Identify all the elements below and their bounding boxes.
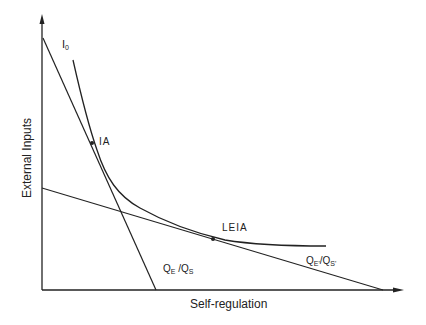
steep-q2: Q bbox=[181, 263, 189, 274]
isoquant-label: I0 bbox=[62, 38, 69, 51]
point-ia-marker bbox=[90, 141, 94, 145]
point-leia-marker bbox=[211, 237, 215, 241]
shallow-q1: Q bbox=[306, 255, 314, 266]
x-axis-arrow-icon bbox=[393, 288, 404, 293]
y-axis-label: External Inputs bbox=[20, 118, 34, 198]
steep-q2-sub: S bbox=[189, 268, 194, 275]
steep-q1: Q bbox=[163, 263, 171, 274]
shallow-q2-sub: S' bbox=[330, 260, 336, 267]
isoquant-curve bbox=[73, 60, 326, 246]
budget-line-steep bbox=[43, 38, 156, 290]
isoquant-label-sub: 0 bbox=[65, 44, 69, 51]
y-axis-arrow-icon bbox=[40, 14, 45, 24]
point-ia-label: IA bbox=[99, 136, 110, 147]
x-axis-label: Self-regulation bbox=[190, 297, 267, 311]
point-leia-label: LEIA bbox=[222, 222, 248, 233]
shallow-line-label: QE'/QS' bbox=[306, 255, 336, 267]
steep-line-label: QE /QS bbox=[163, 263, 193, 275]
